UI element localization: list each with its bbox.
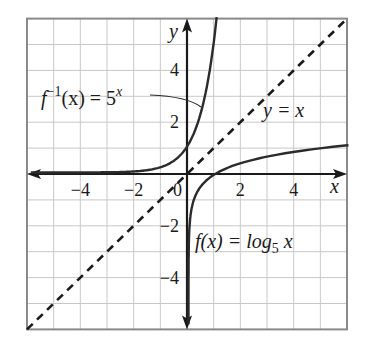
y-tick-label: 4 [170, 60, 179, 80]
x-tick-label: 2 [236, 180, 245, 200]
log-pre: f(x) = log [195, 230, 272, 253]
y-tick-label: 2 [170, 112, 179, 132]
log-post: x [279, 230, 293, 252]
x-axis-label: x [329, 175, 339, 197]
identity-line-label: y = x [261, 99, 304, 122]
x-tick-label: −4 [71, 180, 90, 200]
y-axis-label: y [167, 20, 178, 43]
x-tick-label: 4 [289, 180, 298, 200]
x-tick-label: −2 [124, 180, 143, 200]
y-tick-label: −2 [160, 216, 179, 236]
inverse-sup: −1 [47, 84, 62, 99]
y-tick-label: −4 [160, 268, 179, 288]
log-base: 5 [272, 241, 279, 256]
x-tick-label: 0 [173, 180, 182, 200]
function-graph: −4−202442−2−4 y x f−1(x) = 5x y = x f(x)… [0, 0, 365, 351]
inverse-mid: (x) = 5 [61, 87, 116, 110]
inverse-exp: x [115, 84, 123, 99]
